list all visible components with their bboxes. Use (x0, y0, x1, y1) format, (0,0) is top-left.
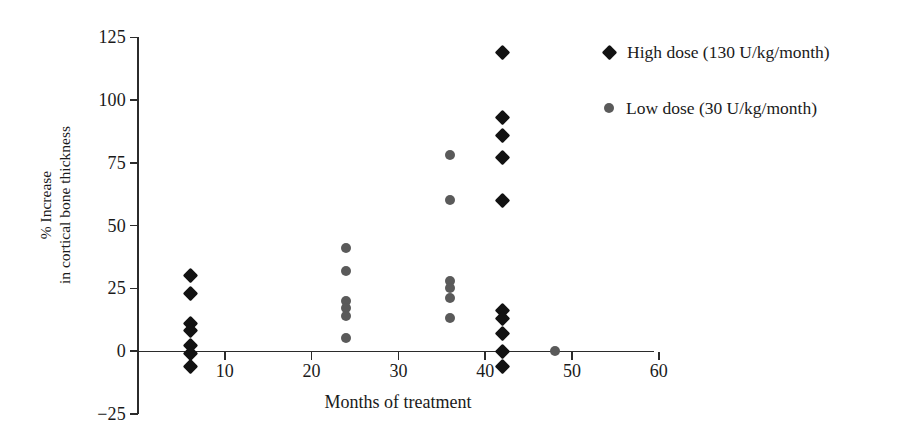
x-tick-20 (311, 352, 313, 360)
y-tick-label-125: 125 (98, 28, 126, 46)
y-tick-100 (130, 99, 138, 101)
data-point (495, 110, 511, 126)
data-point (182, 358, 198, 374)
y-tick-label--25: −25 (97, 405, 126, 423)
data-point (445, 195, 455, 205)
data-point (495, 45, 511, 61)
data-point (445, 150, 455, 160)
legend-item-low-dose[interactable]: Low dose (30 U/kg/month) (604, 98, 830, 118)
y-tick-label-100: 100 (98, 91, 126, 109)
data-point (341, 243, 351, 253)
x-axis-title: Months of treatment (238, 392, 558, 413)
scatter-chart-figure: −250255075100125 102030405060 Months of … (0, 0, 909, 437)
x-tick-30 (398, 352, 400, 360)
y-axis-title: % Increase in cortical bone thickness (36, 85, 74, 325)
y-axis-title-line-2: in cortical bone thickness (55, 85, 74, 325)
y-tick-25 (130, 288, 138, 290)
y-tick-label-25: 25 (108, 279, 126, 297)
legend-item-high-dose[interactable]: High dose (130 U/kg/month) (604, 42, 830, 62)
x-tick-label-20: 20 (292, 362, 332, 380)
y-tick-label-75: 75 (108, 154, 126, 172)
y-tick-50 (130, 225, 138, 227)
data-point (341, 266, 351, 276)
data-point (182, 268, 198, 284)
x-tick-40 (484, 352, 486, 360)
plot-area: −250255075100125 102030405060 Months of … (0, 0, 909, 437)
y-axis-title-line-1: % Increase (36, 85, 55, 325)
chart-legend: High dose (130 U/kg/month)Low dose (30 U… (604, 42, 830, 154)
legend-item-label: High dose (130 U/kg/month) (627, 42, 830, 62)
data-point (445, 313, 455, 323)
y-tick-125 (130, 37, 138, 39)
x-tick-label-30: 30 (378, 362, 418, 380)
data-point (495, 127, 511, 143)
circle-marker-icon (604, 103, 614, 113)
x-tick-label-50: 50 (552, 362, 592, 380)
data-point (550, 346, 560, 356)
data-point (495, 326, 511, 342)
x-tick-label-10: 10 (205, 362, 245, 380)
data-point (495, 343, 511, 359)
y-tick--25 (130, 413, 138, 415)
y-tick-75 (130, 162, 138, 164)
diamond-marker-icon (602, 44, 618, 60)
legend-item-label: Low dose (30 U/kg/month) (626, 98, 817, 118)
data-point (341, 333, 351, 343)
data-point (495, 150, 511, 166)
data-point (445, 293, 455, 303)
x-tick-10 (224, 352, 226, 360)
data-point (495, 193, 511, 209)
data-point (341, 311, 351, 321)
y-tick-0 (130, 350, 138, 352)
x-tick-50 (571, 352, 573, 360)
x-axis-line (137, 351, 654, 353)
data-point (182, 285, 198, 301)
x-tick-label-60: 60 (639, 362, 679, 380)
x-tick-60 (658, 352, 660, 360)
y-tick-label-50: 50 (108, 217, 126, 235)
y-tick-label-0: 0 (117, 342, 126, 360)
data-point (445, 283, 455, 293)
